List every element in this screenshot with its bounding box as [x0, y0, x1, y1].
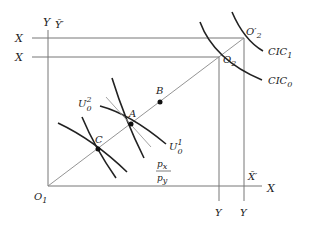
label-o1: O1: [34, 191, 47, 205]
label-x-second: X: [14, 51, 24, 64]
label-cic1: CIC1: [268, 46, 292, 60]
label-py: py: [157, 173, 168, 185]
point-c: [96, 147, 101, 152]
point-b: [158, 100, 163, 105]
point-a: [129, 122, 134, 127]
label-px: px: [157, 159, 168, 171]
edgeworth-box-diagram: Y Ȳ′ X X O′2 O2 CIC1 CIC0 B A C U20 U10 …: [0, 0, 309, 226]
label-cic0: CIC0: [268, 75, 292, 89]
label-o2: O2: [223, 54, 236, 68]
label-y-left: Y: [43, 16, 52, 29]
label-u02: U20: [78, 95, 92, 113]
label-b: B: [155, 85, 163, 96]
label-u01: U10: [169, 138, 183, 156]
label-x-top: X: [14, 32, 24, 45]
label-x-bar-prime: X̄′: [247, 171, 258, 182]
price-line-a: [106, 97, 151, 147]
label-c: C: [95, 134, 103, 145]
indifference-curve-c-1: [58, 123, 127, 172]
label-x-bottom: X: [266, 182, 276, 195]
label-a: A: [128, 108, 136, 119]
diagonal-line: [48, 38, 244, 186]
label-y-bottom-2: Y: [240, 207, 248, 218]
label-y-bottom-1: Y: [215, 207, 223, 218]
label-y-bar-prime: Ȳ′: [55, 19, 65, 30]
